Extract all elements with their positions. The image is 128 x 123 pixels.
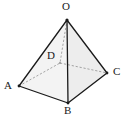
vertex-dot-O (65, 18, 68, 21)
vertex-dot-D (59, 62, 61, 64)
vertex-label-A: A (4, 80, 12, 91)
vertex-dot-A (18, 85, 21, 88)
geometry-figure: O A B C D (0, 0, 128, 123)
vertex-label-B: B (64, 105, 71, 116)
vertex-label-D: D (47, 50, 55, 61)
front-left-face-fill (19, 20, 68, 103)
front-right-face-fill (67, 20, 107, 103)
vertex-label-O: O (62, 1, 70, 12)
vertex-label-C: C (113, 66, 120, 77)
vertex-dot-C (106, 72, 109, 75)
